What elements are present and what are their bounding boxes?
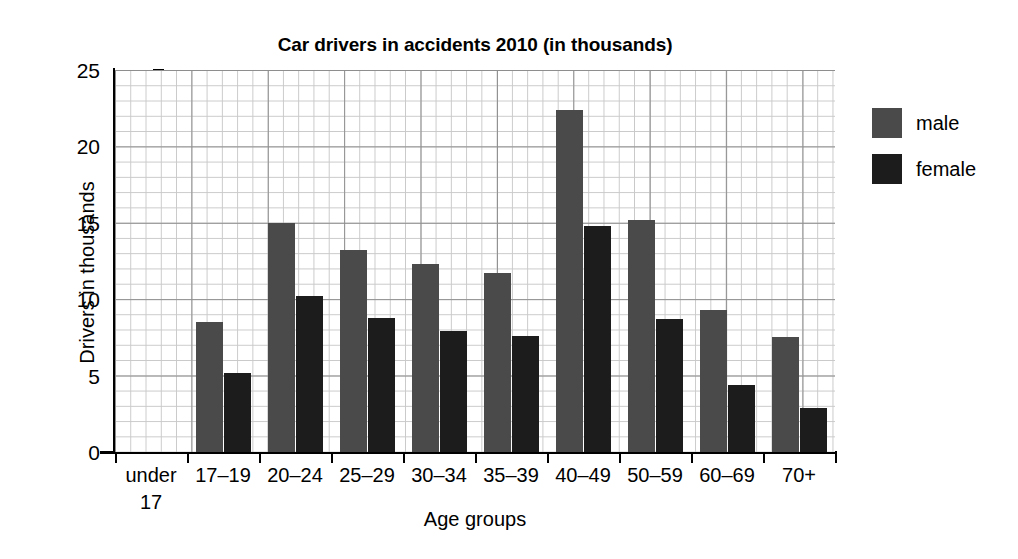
bar-chart-figure: Car drivers in accidents 2010 (in thousa…	[0, 0, 1018, 559]
x-tick-label: 70+	[744, 462, 854, 489]
bar-female	[728, 385, 755, 452]
x-axis-title: Age groups	[115, 508, 835, 531]
legend-swatch-male	[872, 108, 902, 138]
plot-area	[115, 70, 835, 452]
legend: malefemale	[872, 100, 1018, 192]
y-tick-label: 20	[48, 136, 100, 157]
bar-male	[700, 310, 727, 452]
legend-item-female: female	[872, 146, 1018, 192]
chart-title: Car drivers in accidents 2010 (in thousa…	[115, 34, 835, 56]
bar-female	[512, 336, 539, 452]
y-tick-label: 25	[48, 60, 100, 81]
y-tick-label: 5	[48, 365, 100, 386]
y-tick-label: 15	[48, 212, 100, 233]
bars-layer	[115, 70, 835, 452]
bar-female	[656, 319, 683, 452]
y-axis-tick-labels: 0510152025	[48, 70, 100, 452]
bar-male	[268, 223, 295, 452]
y-tick-label: 10	[48, 289, 100, 310]
bar-male	[196, 322, 223, 452]
bar-male	[628, 220, 655, 452]
legend-label: female	[916, 158, 976, 181]
bar-male	[340, 250, 367, 452]
bar-female	[440, 331, 467, 452]
bar-male	[484, 273, 511, 452]
bar-male	[556, 110, 583, 452]
bar-female	[800, 408, 827, 452]
legend-label: male	[916, 112, 959, 135]
bar-male	[772, 337, 799, 452]
bar-female	[224, 373, 251, 452]
bar-female	[368, 318, 395, 452]
legend-swatch-female	[872, 154, 902, 184]
y-tick-label: 0	[48, 442, 100, 463]
legend-item-male: male	[872, 100, 1018, 146]
bar-female	[296, 296, 323, 452]
bar-male	[412, 264, 439, 452]
bar-female	[584, 226, 611, 452]
